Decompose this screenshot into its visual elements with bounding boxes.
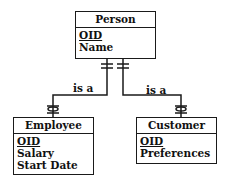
relationship-label-customer: is a	[146, 84, 166, 96]
relationship-label-employee: is a	[73, 82, 93, 94]
attribute-salary: Salary	[17, 147, 90, 159]
attribute-oid: OID	[17, 135, 90, 147]
attribute-preferences: Preferences	[140, 147, 213, 159]
entity-title: Person	[76, 12, 155, 28]
entity-title: Employee	[14, 118, 93, 134]
attribute-oid: OID	[140, 135, 213, 147]
entity-title: Customer	[137, 118, 216, 134]
entity-employee: Employee OID Salary Start Date	[13, 117, 94, 175]
attribute-start-date: Start Date	[17, 159, 90, 171]
entity-customer: Customer OID Preferences	[136, 117, 217, 164]
attribute-oid: OID	[79, 29, 152, 41]
attribute-name: Name	[79, 41, 152, 53]
entity-person: Person OID Name	[75, 11, 156, 59]
